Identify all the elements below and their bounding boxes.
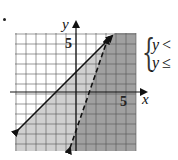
y-axis-label: y xyxy=(60,16,69,32)
inequality-system: { y< y≤ xyxy=(142,35,178,75)
x-axis-label: x xyxy=(141,91,149,107)
inequality-1: y< xyxy=(152,37,171,53)
y-tick-5: 5 xyxy=(65,36,72,51)
inequality-graph: yx55 xyxy=(0,0,178,160)
x-tick-5: 5 xyxy=(120,94,127,109)
inequality-2: y≤ xyxy=(152,55,171,71)
